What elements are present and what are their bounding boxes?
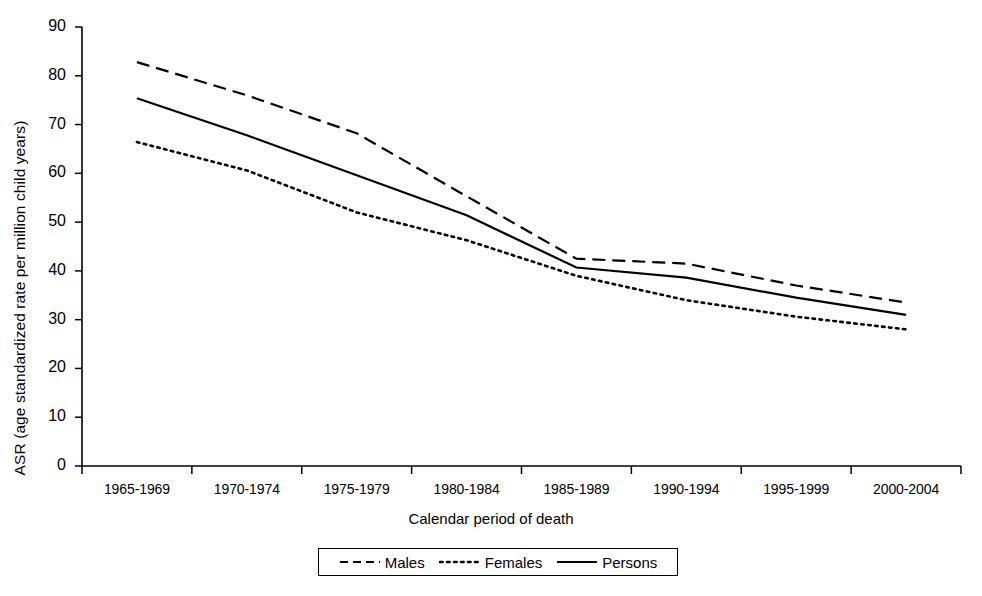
y-axis-tick-label: 40 bbox=[26, 261, 66, 279]
legend-item-females: Females bbox=[432, 554, 550, 571]
y-axis-tick-label: 90 bbox=[26, 17, 66, 35]
x-axis-title-text: Calendar period of death bbox=[408, 510, 573, 527]
legend-label: Females bbox=[485, 554, 543, 571]
y-axis-tick-label: 30 bbox=[26, 310, 66, 328]
y-axis-tick-label: 80 bbox=[26, 66, 66, 84]
legend-item-persons: Persons bbox=[549, 554, 664, 571]
x-axis-tick-label: 2000-2004 bbox=[850, 481, 962, 497]
x-axis-tick-label: 1980-1984 bbox=[411, 481, 523, 497]
y-axis-tick-label: 20 bbox=[26, 358, 66, 376]
chart-series-group bbox=[137, 62, 906, 329]
chart-legend: MalesFemalesPersons bbox=[318, 548, 678, 576]
chart-axes bbox=[82, 27, 961, 466]
series-line-males bbox=[137, 62, 906, 303]
chart-container: 0102030405060708090 1965-19691970-197419… bbox=[0, 0, 982, 596]
legend-swatch-dotted-icon bbox=[439, 557, 481, 567]
x-axis-title: Calendar period of death bbox=[0, 510, 982, 527]
legend-label: Persons bbox=[602, 554, 657, 571]
y-axis-tick-label: 70 bbox=[26, 115, 66, 133]
y-axis-tick-label: 0 bbox=[26, 456, 66, 474]
x-axis-ticks bbox=[82, 466, 961, 474]
series-line-females bbox=[137, 142, 906, 329]
series-line-persons bbox=[137, 98, 906, 315]
legend-label: Males bbox=[385, 554, 425, 571]
x-axis-tick-label: 1995-1999 bbox=[740, 481, 852, 497]
y-axis-ticks bbox=[75, 27, 82, 466]
chart-plot-area bbox=[0, 0, 982, 596]
x-axis-tick-label: 1990-1994 bbox=[630, 481, 742, 497]
y-axis-tick-label: 50 bbox=[26, 212, 66, 230]
x-axis-tick-label: 1970-1974 bbox=[191, 481, 303, 497]
legend-item-males: Males bbox=[332, 554, 432, 571]
y-axis-tick-label: 10 bbox=[26, 407, 66, 425]
legend-swatch-dashed-icon bbox=[339, 557, 381, 567]
legend-swatch-solid-icon bbox=[556, 557, 598, 567]
y-axis-tick-label: 60 bbox=[26, 163, 66, 181]
x-axis-tick-label: 1965-1969 bbox=[81, 481, 193, 497]
x-axis-tick-label: 1975-1979 bbox=[301, 481, 413, 497]
x-axis-tick-label: 1985-1989 bbox=[520, 481, 632, 497]
